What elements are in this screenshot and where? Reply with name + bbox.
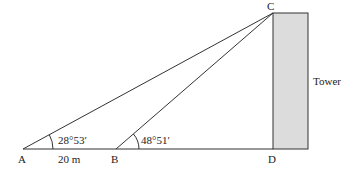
angle-arc-A [49, 135, 53, 149]
angle-arc-B [133, 134, 139, 149]
tower-label: Tower [313, 75, 341, 87]
angle-label-B: 48°51′ [141, 134, 170, 146]
point-label-B: B [111, 153, 118, 165]
angle-label-A: 28°53′ [58, 134, 87, 146]
distance-label-AB: 20 m [58, 153, 81, 165]
point-label-A: A [18, 153, 26, 165]
diagram-canvas: A B C D 28°53′ 48°51′ 20 m Tower [0, 0, 361, 176]
sight-line-AC [23, 13, 273, 149]
tower-rect [273, 13, 308, 149]
sight-line-BC [116, 13, 273, 149]
point-label-D: D [268, 153, 276, 165]
point-label-C: C [267, 0, 274, 12]
